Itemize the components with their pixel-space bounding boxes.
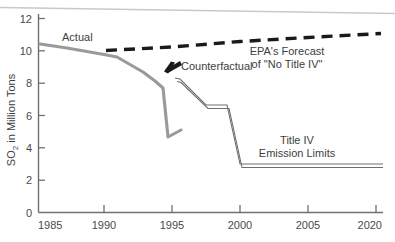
series-counterfactual [106,34,381,51]
counterfactual-series-label: Counterfactual [181,60,253,72]
title-iv-label-line1: Title IV [280,134,314,146]
x-tick-label-1985: 1985 [38,219,62,231]
title-iv-label-line2: Emission Limits [259,147,336,159]
x-tick-label-2005: 2005 [296,219,320,231]
x-tick-label-2000: 2000 [228,219,252,231]
svg-text:SO2 in Million Tons: SO2 in Million Tons [5,73,20,166]
axis-group [39,14,384,213]
y-tick-label-8: 8 [26,77,32,89]
y-tick-label-10: 10 [20,45,32,57]
x-tick-label-2020: 2020 [358,219,382,231]
top-border-rule [0,8,395,14]
x-tick-label-1990: 1990 [92,219,116,231]
y-tick-label-2: 2 [26,174,32,186]
actual-series-label: Actual [62,31,93,43]
y-axis-title: SO2 in Million Tons [5,73,20,166]
epa-forecast-label-line2: of "No Title IV" [252,58,323,70]
x-tick-marks [104,205,376,213]
so2-emissions-line-chart: 12 10 8 6 4 2 0 1985 1990 1995 2000 2005… [0,0,395,242]
series-actual [40,44,181,137]
x-tick-label-1995: 1995 [160,219,184,231]
y-tick-label-4: 4 [26,142,32,154]
counterfactual-pointer-icon [164,61,182,74]
chart-container: 12 10 8 6 4 2 0 1985 1990 1995 2000 2005… [0,0,395,242]
y-tick-label-6: 6 [26,110,32,122]
y-tick-label-0: 0 [26,207,32,219]
ylabel-rest: in Million Tons [5,73,17,145]
ylabel-so: SO [5,150,17,166]
y-tick-label-12: 12 [20,13,32,25]
epa-forecast-label-line1: EPA's Forecast [250,45,325,57]
